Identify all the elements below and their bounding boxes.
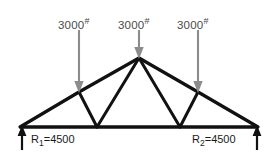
reaction-label-left-name: R [31, 133, 39, 145]
reaction-arrow-right [253, 125, 262, 150]
member-right-top-chord-low [198, 92, 258, 127]
reaction-label-right-name: R [192, 133, 200, 145]
load-arrow-right [193, 30, 202, 93]
load-label-center-value: 3000 [118, 19, 144, 31]
load-arrow-left [74, 30, 83, 93]
reaction-label-right: R2=4500 [192, 134, 236, 148]
load-label-left: 3000# [58, 17, 90, 31]
load-arrow-center [134, 30, 143, 59]
reaction-arrow-left [18, 125, 27, 150]
load-label-right-value: 3000 [177, 19, 203, 31]
truss-diagram: 3000# 3000# 3000# R1=4500 R2=4500 [0, 0, 277, 152]
load-label-left-unit: # [84, 16, 89, 26]
load-label-right-unit: # [203, 16, 208, 26]
load-label-center: 3000# [118, 17, 150, 31]
member-left-top-chord-low [20, 92, 79, 127]
load-label-right: 3000# [177, 17, 209, 31]
member-left-web-vertical [79, 92, 97, 127]
reaction-label-right-value: 4500 [211, 133, 235, 145]
load-label-center-unit: # [144, 16, 149, 26]
truss-members [20, 58, 258, 127]
reaction-label-left-value: 4500 [50, 133, 74, 145]
member-right-web-vertical [180, 92, 198, 127]
load-arrow-center-head [134, 47, 143, 59]
reaction-label-left: R1=4500 [31, 134, 75, 148]
load-label-left-value: 3000 [58, 19, 84, 31]
